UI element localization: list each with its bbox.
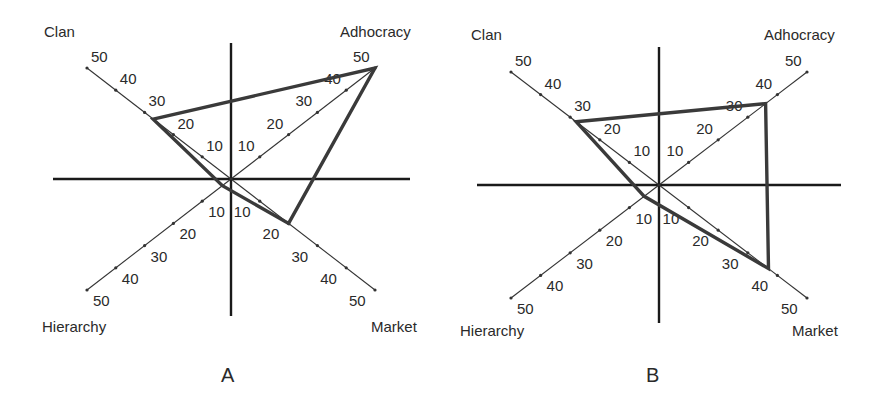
competing-values-diagrams: 1020304050102030405010203040501020304050… [0, 0, 891, 413]
tick-mark [201, 200, 204, 203]
tick-label: 20 [177, 115, 194, 132]
tick-label: 20 [267, 115, 284, 132]
tick-label: 20 [696, 120, 713, 137]
tick-label: 10 [635, 210, 652, 227]
tick-label: 50 [515, 52, 532, 69]
tick-mark [805, 296, 808, 299]
tick-label: 30 [722, 255, 739, 272]
scale-hierarchy [511, 185, 659, 298]
quadrant-label-market: Market [792, 322, 839, 339]
tick-mark [85, 66, 88, 69]
tick-label: 10 [234, 203, 251, 220]
quadrant-label-clan: Clan [471, 26, 502, 43]
tick-label: 40 [120, 70, 137, 87]
tick-label: 10 [238, 137, 255, 154]
tick-mark [776, 93, 779, 96]
tick-mark [143, 244, 146, 247]
tick-mark [746, 251, 749, 254]
quadrant-label-clan: Clan [44, 23, 75, 40]
tick-label: 20 [263, 225, 280, 242]
tick-label: 30 [574, 97, 591, 114]
tick-label: 40 [320, 270, 337, 287]
tick-label: 10 [667, 142, 684, 159]
tick-label: 40 [755, 75, 772, 92]
tick-mark [85, 288, 88, 291]
tick-label: 10 [206, 137, 223, 154]
tick-label: 50 [781, 300, 798, 317]
scale-hierarchy [87, 179, 231, 290]
tick-label: 40 [547, 277, 564, 294]
tick-mark [539, 274, 542, 277]
tick-mark [345, 266, 348, 269]
tick-label: 10 [208, 203, 225, 220]
tick-label: 20 [604, 120, 621, 137]
tick-mark [569, 116, 572, 119]
tick-label: 20 [179, 225, 196, 242]
tick-mark [717, 229, 720, 232]
tick-label: 50 [353, 48, 370, 65]
scale-adhocracy [659, 72, 807, 185]
tick-mark [316, 244, 319, 247]
panel-a: 1020304050102030405010203040501020304050… [42, 23, 418, 386]
tick-mark [143, 111, 146, 114]
tick-label: 50 [91, 48, 108, 65]
tick-mark [316, 111, 319, 114]
tick-label: 40 [122, 270, 139, 287]
tick-mark [287, 133, 290, 136]
scale-clan [511, 72, 659, 185]
quadrant-label-adhocracy: Adhocracy [340, 23, 411, 40]
tick-label: 30 [149, 92, 166, 109]
tick-label: 40 [751, 277, 768, 294]
panel-label-b: B [646, 364, 659, 386]
panel-label-a: A [221, 364, 235, 386]
tick-label: 30 [576, 255, 593, 272]
tick-mark [598, 138, 601, 141]
panel-b: 1020304050102030405010203040501020304050… [460, 26, 841, 386]
tick-mark [628, 161, 631, 164]
tick-label: 20 [606, 232, 623, 249]
tick-mark [776, 274, 779, 277]
tick-mark [509, 296, 512, 299]
quadrant-label-market: Market [371, 318, 418, 335]
tick-mark [805, 70, 808, 73]
scale-market [659, 185, 807, 298]
quadrant-label-hierarchy: Hierarchy [460, 322, 525, 339]
quadrant-label-adhocracy: Adhocracy [764, 26, 835, 43]
tick-mark [509, 70, 512, 73]
tick-label: 10 [633, 142, 650, 159]
tick-label: 50 [517, 300, 534, 317]
tick-label: 30 [291, 248, 308, 265]
tick-mark [746, 116, 749, 119]
tick-label: 20 [692, 232, 709, 249]
tick-mark [114, 89, 117, 92]
tick-mark [345, 89, 348, 92]
tick-label: 30 [295, 92, 312, 109]
tick-label: 30 [151, 248, 168, 265]
tick-mark [258, 155, 261, 158]
tick-mark [201, 155, 204, 158]
tick-label: 50 [785, 52, 802, 69]
tick-mark [687, 161, 690, 164]
tick-mark [114, 266, 117, 269]
tick-mark [373, 288, 376, 291]
tick-mark [258, 200, 261, 203]
tick-label: 40 [545, 75, 562, 92]
tick-mark [717, 138, 720, 141]
quadrant-label-hierarchy: Hierarchy [42, 318, 107, 335]
tick-mark [539, 93, 542, 96]
tick-mark [598, 229, 601, 232]
tick-mark [628, 206, 631, 209]
tick-label: 50 [349, 292, 366, 309]
tick-mark [687, 206, 690, 209]
tick-mark [172, 222, 175, 225]
tick-label: 50 [93, 292, 110, 309]
culture-profile-a [153, 68, 375, 223]
tick-mark [569, 251, 572, 254]
